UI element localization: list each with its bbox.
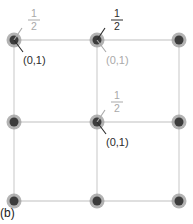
lattice-node: [172, 115, 187, 130]
fraction-denominator: 2: [114, 20, 120, 32]
node-core: [175, 36, 184, 45]
lattice-node: [172, 194, 187, 209]
node-core: [175, 118, 184, 127]
lattice-diagram: 12(0,1)12(0,1)12(0,1): [0, 0, 193, 224]
node-core: [10, 197, 19, 206]
lattice-node: [7, 115, 22, 130]
fraction-numerator: 1: [31, 7, 37, 19]
node-annotations: 12(0,1)12(0,1)12(0,1): [14, 7, 129, 148]
fraction-numerator: 1: [114, 7, 120, 19]
fraction-denominator: 2: [114, 102, 120, 114]
node-core: [93, 197, 102, 206]
coord-label: (0,1): [23, 54, 46, 66]
lattice-node: [172, 33, 187, 48]
fraction-numerator: 1: [114, 89, 120, 101]
node-core: [10, 118, 19, 127]
coord-label: (0,1): [106, 54, 129, 66]
figure-caption: (b): [0, 206, 15, 220]
fraction-denominator: 2: [31, 20, 37, 32]
lattice-node: [90, 194, 105, 209]
node-core: [175, 197, 184, 206]
coord-label: (0,1): [106, 136, 129, 148]
